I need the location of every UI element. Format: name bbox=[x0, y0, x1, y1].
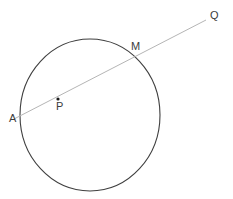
geometry-canvas bbox=[0, 0, 233, 199]
geometry-figure: A P M Q bbox=[0, 0, 233, 199]
secant-line-aq bbox=[14, 20, 206, 119]
point-label-q: Q bbox=[210, 10, 219, 21]
point-label-p: P bbox=[56, 101, 63, 112]
point-label-m: M bbox=[131, 41, 140, 52]
point-label-a: A bbox=[9, 113, 16, 124]
circle-shape bbox=[20, 39, 160, 191]
